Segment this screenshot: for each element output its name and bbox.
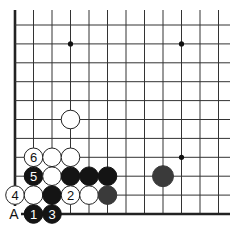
black-stone: 1 <box>24 205 43 224</box>
white-stone: 6 <box>24 148 43 167</box>
white-stone <box>24 186 43 205</box>
black-stone <box>43 186 62 205</box>
black-stone <box>98 186 117 205</box>
white-stone <box>80 186 99 205</box>
white-stone <box>43 167 62 186</box>
white-stone <box>61 110 80 129</box>
star-point-icon <box>179 41 184 46</box>
white-stone <box>43 148 62 167</box>
black-stone: 5 <box>24 167 43 186</box>
black-stone <box>61 167 80 186</box>
move-number: 6 <box>30 150 37 165</box>
move-number: 1 <box>30 207 37 222</box>
white-stone: 2 <box>61 186 80 205</box>
go-board-diagram: 654213 A <box>0 0 239 234</box>
black-stone: 3 <box>43 205 62 224</box>
black-stone <box>98 167 117 186</box>
move-number: 4 <box>11 188 18 203</box>
white-stone: 4 <box>6 186 25 205</box>
white-stone <box>61 148 80 167</box>
black-stone <box>153 166 174 187</box>
point-labels: A <box>8 206 21 222</box>
move-number: 5 <box>30 169 37 184</box>
star-point-icon <box>179 155 184 160</box>
move-number: 2 <box>67 188 74 203</box>
black-stone <box>80 167 99 186</box>
point-label-a: A <box>9 206 19 222</box>
move-number: 3 <box>48 207 55 222</box>
stones: 654213 <box>6 110 174 223</box>
star-point-icon <box>68 41 73 46</box>
